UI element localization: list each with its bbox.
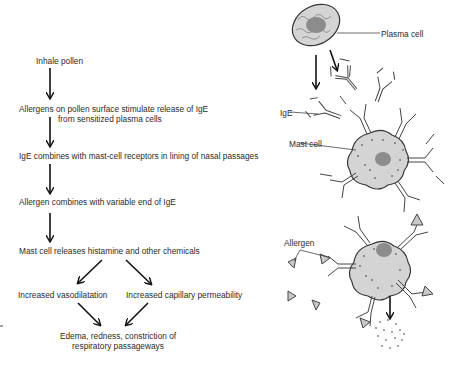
label-plasma-cell: Plasma cell [381,29,423,39]
arrow-diagonal-icon [78,303,100,325]
nucleus [375,152,391,166]
plasma-cell [285,0,380,54]
mast-cell-with-allergens [288,214,433,349]
label-mast-cell: Mast cell [289,139,322,149]
label-ige: IgE [280,108,292,118]
arrow-diagonal-icon [126,303,148,325]
step-ige-combines: IgE combines with mast-cell receptors in… [19,151,258,161]
step-histamine-release: Mast cell releases histamine and other c… [19,246,200,256]
step-vasodilatation: Increased vasodilatation [18,290,107,300]
free-ige-antibodies [304,55,397,127]
step-inhale-pollen: Inhale pollen [36,56,83,66]
arrow-diagonal-icon [78,260,102,283]
step-edema-line2: respiratory passageways [48,341,188,351]
step-capillary-permeability: Increased capillary permeability [126,290,242,300]
nucleus [306,17,326,33]
label-allergen: Allergen [284,238,314,248]
step-allergen-combines: Allergen combines with variable end of I… [19,197,176,207]
step-edema-line1: Edema, redness, constriction of [48,331,188,341]
nucleus [376,243,392,257]
step-allergens-stimulate-line2: from sensitized plasma cells [58,114,162,124]
mast-cell [290,96,444,212]
arrow-diagonal-icon [126,260,151,284]
step-allergens-stimulate-line1: Allergens on pollen surface stimulate re… [19,104,208,114]
histamine-granules [375,319,405,349]
